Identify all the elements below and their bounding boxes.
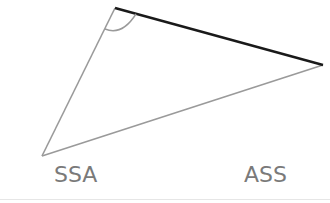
bottom-divider bbox=[0, 199, 330, 200]
side-left bbox=[42, 8, 115, 156]
label-ass: ASS bbox=[244, 164, 287, 186]
side-bottom bbox=[42, 65, 323, 156]
angle-arc bbox=[105, 14, 136, 31]
label-ssa: SSA bbox=[54, 164, 97, 186]
side-top-highlighted bbox=[115, 8, 323, 65]
